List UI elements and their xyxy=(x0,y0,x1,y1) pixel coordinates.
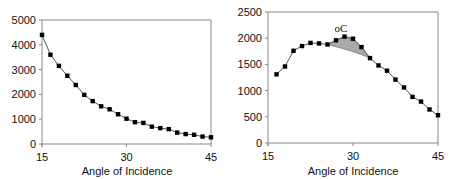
y-tick-label: 2000 xyxy=(12,88,36,100)
data-marker xyxy=(99,104,103,108)
data-marker xyxy=(124,117,128,121)
data-marker xyxy=(317,41,321,45)
x-tick-label: 30 xyxy=(347,150,359,162)
y-tick-label: 3000 xyxy=(12,64,36,76)
data-marker xyxy=(359,45,363,49)
data-marker xyxy=(57,64,61,68)
y-tick-label: 2500 xyxy=(238,6,262,18)
data-line xyxy=(42,35,211,137)
x-tick-label: 45 xyxy=(432,150,444,162)
x-tick-label: 15 xyxy=(36,151,48,163)
data-marker xyxy=(402,85,406,89)
y-tick-label: 5000 xyxy=(12,14,36,26)
data-marker xyxy=(209,135,213,139)
data-marker xyxy=(48,53,52,57)
data-marker xyxy=(419,99,423,103)
data-marker xyxy=(351,37,355,41)
data-marker xyxy=(274,72,278,76)
x-tick-label: 30 xyxy=(120,151,132,163)
x-tick-label: 15 xyxy=(262,150,274,162)
oc-annotation: oC xyxy=(335,22,348,34)
data-marker xyxy=(436,113,440,117)
data-marker xyxy=(40,33,44,37)
data-marker xyxy=(133,120,137,124)
data-marker xyxy=(325,42,329,46)
figure: 010002000300040005000153045 050010001500… xyxy=(0,0,454,179)
data-marker xyxy=(376,63,380,67)
data-marker xyxy=(82,93,86,97)
data-marker xyxy=(200,134,204,138)
data-marker xyxy=(192,133,196,137)
data-marker xyxy=(183,132,187,136)
data-marker xyxy=(91,99,95,103)
y-tick-label: 0 xyxy=(256,137,262,149)
data-marker xyxy=(427,107,431,111)
data-marker xyxy=(283,64,287,68)
y-tick-label: 1000 xyxy=(238,85,262,97)
data-marker xyxy=(368,56,372,60)
data-marker xyxy=(175,130,179,134)
y-tick-label: 1000 xyxy=(12,113,36,125)
data-marker xyxy=(167,127,171,131)
data-marker xyxy=(385,68,389,72)
data-marker xyxy=(107,107,111,111)
y-tick-label: 2000 xyxy=(238,32,262,44)
y-tick-label: 500 xyxy=(244,111,262,123)
left-x-axis-label: Angle of Incidence xyxy=(82,165,173,177)
data-marker xyxy=(65,74,69,78)
data-marker xyxy=(116,112,120,116)
y-tick-label: 4000 xyxy=(12,39,36,51)
data-marker xyxy=(158,126,162,130)
data-marker xyxy=(334,38,338,42)
right-x-axis-label: Angle of Incidence xyxy=(308,165,399,177)
data-marker xyxy=(291,49,295,53)
data-marker xyxy=(308,41,312,45)
data-marker xyxy=(141,121,145,125)
y-tick-label: 0 xyxy=(30,138,36,150)
data-marker xyxy=(410,95,414,99)
data-marker xyxy=(342,34,346,38)
y-tick-label: 1500 xyxy=(238,58,262,70)
data-marker xyxy=(150,124,154,128)
data-marker xyxy=(393,77,397,81)
data-marker xyxy=(300,44,304,48)
left-chart: 010002000300040005000153045 xyxy=(12,14,218,163)
x-tick-label: 45 xyxy=(205,151,217,163)
data-marker xyxy=(74,83,78,87)
